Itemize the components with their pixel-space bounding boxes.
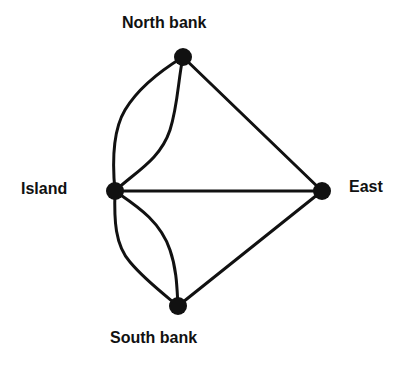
node-south-bank [169, 297, 187, 315]
node-island [106, 182, 124, 200]
edge-north-east [183, 57, 322, 191]
label-south-bank: South bank [110, 329, 197, 347]
label-north-bank: North bank [122, 14, 206, 32]
node-east [313, 182, 331, 200]
edge-south-east [178, 191, 322, 306]
label-east: East [349, 178, 383, 196]
edge-island-north-inner [115, 57, 183, 191]
node-north-bank [174, 48, 192, 66]
label-island: Island [21, 180, 67, 198]
edge-island-south-inner [115, 191, 178, 306]
